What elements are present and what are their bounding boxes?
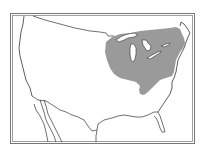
- mexico-mainland-coast: [34, 104, 48, 142]
- range-map: [0, 0, 205, 158]
- map-canvas: [0, 0, 205, 158]
- west-coast: [19, 16, 32, 96]
- northern-border: [33, 16, 114, 36]
- southern-border: [32, 96, 154, 131]
- lake-michigan: [130, 44, 136, 62]
- florida: [154, 112, 165, 132]
- mexico-gulf-coast: [96, 130, 97, 142]
- species-range-area: [105, 27, 185, 95]
